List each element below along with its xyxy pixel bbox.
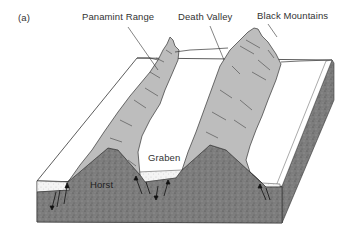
label-death-valley: Death Valley xyxy=(178,11,232,22)
label-graben: Graben xyxy=(148,152,180,163)
label-horst: Horst xyxy=(90,179,113,190)
block-diagram xyxy=(0,0,343,232)
label-panamint-range: Panamint Range xyxy=(82,11,154,22)
label-black-mountains: Black Mountains xyxy=(257,10,328,21)
panel-label: (a) xyxy=(18,12,30,23)
